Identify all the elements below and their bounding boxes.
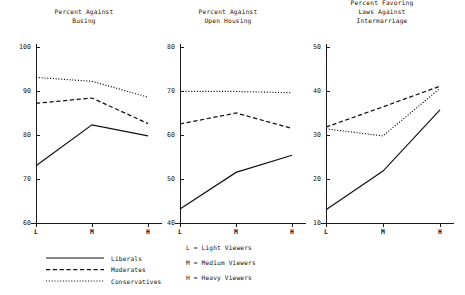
viewer-key-line: H = Heavy Viewers bbox=[186, 274, 252, 282]
busing-chart-series-moderates bbox=[36, 98, 148, 124]
busing-chart: Percent AgainstBusing10090807060LMH bbox=[19, 8, 162, 236]
busing-chart-x-tick-label: H bbox=[146, 228, 150, 236]
open-housing-chart-title-line: Open Housing bbox=[204, 17, 251, 25]
series-legend: LiberalsModeratesConservatives bbox=[46, 255, 162, 285]
open-housing-chart-series-liberals bbox=[180, 155, 292, 209]
intermarriage-chart-series-liberals bbox=[326, 110, 440, 210]
open-housing-chart-x-tick-label: L bbox=[178, 228, 182, 236]
busing-chart-series-conservatives bbox=[36, 77, 148, 97]
intermarriage-chart-y-tick-label: 20 bbox=[313, 175, 321, 183]
busing-chart-x-tick-label: M bbox=[90, 228, 94, 236]
intermarriage-chart-y-tick-label: 50 bbox=[313, 43, 321, 51]
open-housing-chart: Percent AgainstOpen Housing8070605040LMH bbox=[167, 8, 306, 236]
open-housing-chart-series-moderates bbox=[180, 113, 292, 128]
viewer-key-line: L = Light Viewers bbox=[186, 244, 252, 252]
intermarriage-chart: Percent FavoringLaws AgainstIntermarriag… bbox=[313, 0, 454, 236]
intermarriage-chart-x-tick-label: L bbox=[324, 228, 328, 236]
open-housing-chart-y-tick-label: 40 bbox=[167, 219, 175, 227]
open-housing-chart-x-tick-label: H bbox=[290, 228, 294, 236]
open-housing-chart-y-tick-label: 80 bbox=[167, 43, 175, 51]
open-housing-chart-x-tick-label: M bbox=[234, 228, 238, 236]
viewer-key-line: M = Medium Viewers bbox=[186, 259, 256, 266]
busing-chart-title: Percent AgainstBusing bbox=[55, 8, 114, 25]
open-housing-chart-y-tick-label: 50 bbox=[167, 175, 175, 183]
viewer-key: L = Light ViewersM = Medium ViewersH = H… bbox=[186, 244, 256, 282]
busing-chart-x-tick-label: L bbox=[34, 228, 38, 236]
open-housing-chart-title-line: Percent Against bbox=[199, 8, 258, 16]
busing-chart-y-tick-label: 70 bbox=[23, 175, 31, 183]
busing-chart-y-tick-label: 100 bbox=[19, 43, 31, 51]
busing-chart-y-tick-label: 60 bbox=[23, 219, 31, 227]
three-panel-line-chart-figure: Percent AgainstBusing10090807060LMHPerce… bbox=[0, 0, 465, 295]
intermarriage-chart-title-line: Intermarriage bbox=[356, 17, 407, 25]
intermarriage-chart-title-line: Percent Favoring bbox=[351, 0, 414, 7]
busing-chart-y-tick-label: 90 bbox=[23, 87, 31, 95]
open-housing-chart-title: Percent AgainstOpen Housing bbox=[199, 8, 258, 25]
intermarriage-chart-y-tick-label: 40 bbox=[313, 87, 321, 95]
intermarriage-chart-title-line: Laws Against bbox=[358, 8, 405, 16]
busing-chart-y-tick-label: 80 bbox=[23, 131, 31, 139]
intermarriage-chart-x-tick-label: H bbox=[438, 228, 442, 236]
busing-chart-title-line: Percent Against bbox=[55, 8, 114, 16]
open-housing-chart-y-tick-label: 60 bbox=[167, 131, 175, 139]
legend-label-conservatives: Conservatives bbox=[111, 278, 162, 285]
legend-label-moderates: Moderates bbox=[111, 266, 146, 273]
busing-chart-series-liberals bbox=[36, 125, 148, 166]
intermarriage-chart-y-tick-label: 10 bbox=[313, 219, 321, 227]
intermarriage-chart-series-moderates bbox=[326, 86, 440, 127]
intermarriage-chart-x-tick-label: M bbox=[381, 228, 385, 236]
open-housing-chart-series-conservatives bbox=[180, 91, 292, 92]
open-housing-chart-y-tick-label: 70 bbox=[167, 87, 175, 95]
legend-label-liberals: Liberals bbox=[111, 255, 142, 262]
busing-chart-title-line: Busing bbox=[72, 17, 96, 25]
intermarriage-chart-title: Percent FavoringLaws AgainstIntermarriag… bbox=[351, 0, 414, 25]
intermarriage-chart-y-tick-label: 30 bbox=[313, 131, 321, 139]
